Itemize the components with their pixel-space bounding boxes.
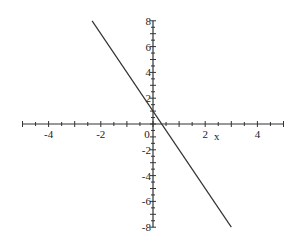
x-axis-label: x: [214, 130, 220, 142]
x-tick-label: -2: [96, 128, 105, 140]
y-tick-label: -2: [142, 144, 151, 156]
y-tick-label: -4: [142, 170, 152, 182]
x-tick-label: -4: [44, 128, 54, 140]
y-tick-label: -8: [142, 221, 152, 233]
y-tick-label: 6: [146, 41, 152, 53]
y-tick-label: 2: [146, 92, 152, 104]
x-tick-label: 0: [144, 128, 150, 140]
x-tick-label: 4: [255, 128, 261, 140]
y-tick-label: -6: [142, 195, 152, 207]
y-tick-label: 4: [146, 66, 152, 78]
line-chart: -4-2024 -8-6-4-22468 x: [0, 0, 299, 251]
y-tick-label: 8: [146, 15, 152, 27]
x-tick-label: 2: [202, 128, 208, 140]
